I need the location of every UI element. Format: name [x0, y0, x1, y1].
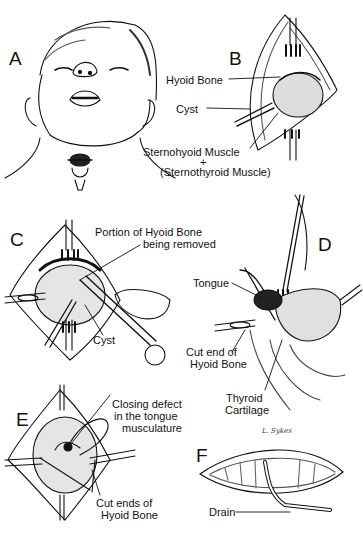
artist-signature: L. Sykes [262, 427, 292, 435]
label-in-the-tongue: in the tongue [114, 410, 178, 422]
panel-label-d: D [318, 235, 332, 254]
label-drain: Drain [209, 506, 235, 518]
label-cut-ends-of: Cut ends of [96, 497, 152, 509]
label-thyroid: Thyroid [226, 392, 263, 404]
label-cyst-c: Cyst [93, 334, 115, 346]
label-hyoid-bone-e: Hyoid Bone [101, 509, 158, 521]
panel-label-c: C [10, 230, 24, 249]
label-musculature: musculature [122, 422, 182, 434]
label-cyst-b: Cyst [176, 103, 198, 115]
label-sternothyroid-muscle: (Sternothyroid Muscle) [160, 166, 271, 178]
panel-label-f: F [196, 446, 208, 465]
label-portion-hyoid: Portion of Hyoid Bone [95, 226, 202, 238]
panel-label-a: A [9, 49, 22, 68]
label-being-removed: being removed [143, 238, 216, 250]
label-tongue: Tongue [193, 277, 229, 289]
panel-d-tongue-drawing [215, 195, 362, 410]
label-hyoid-bone-d: Hyoid Bone [190, 358, 247, 370]
panel-a-head-drawing [5, 21, 175, 190]
label-closing-defect: Closing defect [112, 398, 182, 410]
surgical-illustration: A B C D E F Hyoid Bone Cyst Sternohyoid … [0, 0, 363, 539]
label-sternohyoid-muscle: Sternohyoid Muscle [143, 146, 240, 158]
panel-f-drain-drawing [200, 450, 343, 510]
panel-label-e: E [16, 410, 29, 429]
panel-b-incision-drawing [235, 15, 337, 160]
panel-label-b: B [229, 49, 242, 68]
label-cartilage: Cartilage [225, 404, 269, 416]
label-cut-end-of: Cut end of [186, 346, 237, 358]
label-hyoid-bone-b: Hyoid Bone [166, 74, 223, 86]
